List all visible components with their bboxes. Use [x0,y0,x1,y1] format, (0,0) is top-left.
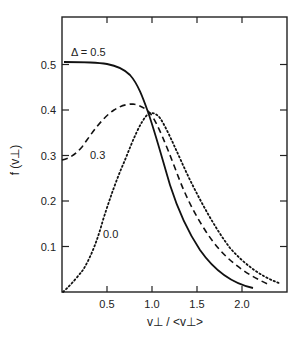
curve-label-0-3: 0.3 [90,149,105,161]
curve-delta-0-0 [63,113,279,292]
x-tick-label: 2.0 [234,298,249,310]
y-tick-label: 0.3 [41,150,56,162]
chart: 0.5 1.0 1.5 2.0 0.1 0.2 0.3 0.4 0.5 Δ = … [0,0,303,345]
x-tick-label: 1.5 [189,298,204,310]
y-tick-label: 0.2 [41,195,56,207]
curve-label-delta-0-5: Δ = 0.5 [71,46,106,58]
x-tick-label: 1.0 [144,298,159,310]
x-axis-label: v⊥ / <v⊥> [147,315,203,329]
curve-delta-0-3 [62,104,270,285]
y-tick-label: 0.5 [41,59,56,71]
y-axis-label: f (v⊥) [8,145,22,176]
y-tick-label: 0.4 [41,104,56,116]
x-tick-label: 0.5 [99,298,114,310]
curve-label-0-0: 0.0 [103,228,118,240]
y-tick-label: 0.1 [41,241,56,253]
